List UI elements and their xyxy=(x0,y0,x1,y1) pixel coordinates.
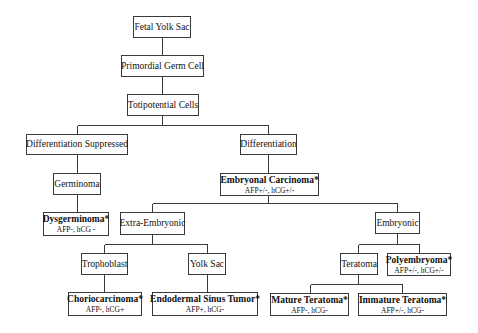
node-differentiation-suppressed: Differentiation Suppressed xyxy=(26,134,128,155)
node-embryonic: Embryonic xyxy=(375,212,420,234)
node-trophoblast: Trophoblast xyxy=(81,253,128,275)
tumor-markers: AFP-, hCG- xyxy=(291,306,328,315)
node-label: Fetal Yolk Sac xyxy=(134,22,189,33)
node-label: Germinoma xyxy=(54,179,99,190)
node-immature-teratoma: Immature Teratoma* AFP+/-, hCG- xyxy=(358,293,447,316)
tumor-name: Choriocarcinoma* xyxy=(67,294,143,305)
node-teratoma: Teratoma xyxy=(340,253,378,275)
node-primordial-germ-cell: Primordial Germ Cell xyxy=(121,55,204,77)
tumor-markers: AFP+/-, hCG+/- xyxy=(394,266,443,275)
node-mature-teratoma: Mature Teratoma* AFP-, hCG- xyxy=(270,293,349,316)
node-dysgerminoma: Dysgerminoma* AFP-, hCG - xyxy=(43,212,109,236)
tumor-name: Immature Teratoma* xyxy=(359,295,446,306)
tumor-markers: AFP-, hCG - xyxy=(57,225,96,234)
node-differentiation: Differentiation xyxy=(240,134,297,155)
connector-lines xyxy=(0,0,478,333)
node-extra-embryonic: Extra-Embryonic xyxy=(120,212,185,235)
node-embryonal-carcinoma: Embryonal Carcinoma* AFP+/-, hCG+/- xyxy=(220,173,319,196)
node-label: Yolk Sac xyxy=(190,259,224,270)
tumor-markers: AFP+, hCG- xyxy=(186,305,224,314)
node-label: Embryonic xyxy=(376,218,418,229)
tumor-name: Mature Teratoma* xyxy=(271,295,348,306)
germ-cell-tumor-tree: Fetal Yolk Sac Primordial Germ Cell Toti… xyxy=(0,0,478,333)
tumor-markers: AFP+/-, hCG+/- xyxy=(245,186,294,195)
node-endodermal-sinus-tumor: Endodermal Sinus Tumor* AFP+, hCG- xyxy=(152,292,258,316)
tumor-name: Dysgerminoma* xyxy=(43,214,110,225)
node-label: Extra-Embryonic xyxy=(120,218,186,229)
node-polyembryoma: Polyembryoma* AFP+/-, hCG+/- xyxy=(387,253,451,276)
node-fetal-yolk-sac: Fetal Yolk Sac xyxy=(133,16,191,38)
tumor-name: Embryonal Carcinoma* xyxy=(220,175,318,186)
node-germinoma: Germinoma xyxy=(53,173,101,195)
node-label: Totipotential Cells xyxy=(128,100,198,111)
node-label: Differentiation xyxy=(240,139,296,150)
tumor-markers: AFP-, hCG+ xyxy=(86,305,124,314)
node-label: Primordial Germ Cell xyxy=(121,61,204,72)
tumor-name: Endodermal Sinus Tumor* xyxy=(150,294,260,305)
tumor-name: Polyembryoma* xyxy=(386,255,453,266)
node-totipotential-cells: Totipotential Cells xyxy=(127,94,199,116)
tumor-markers: AFP+/-, hCG- xyxy=(381,306,424,315)
node-yolk-sac: Yolk Sac xyxy=(188,253,226,275)
node-label: Teratoma xyxy=(341,259,377,270)
node-label: Differentiation Suppressed xyxy=(26,139,128,150)
node-choriocarcinoma: Choriocarcinoma* AFP-, hCG+ xyxy=(68,292,142,316)
node-label: Trophoblast xyxy=(82,259,128,270)
